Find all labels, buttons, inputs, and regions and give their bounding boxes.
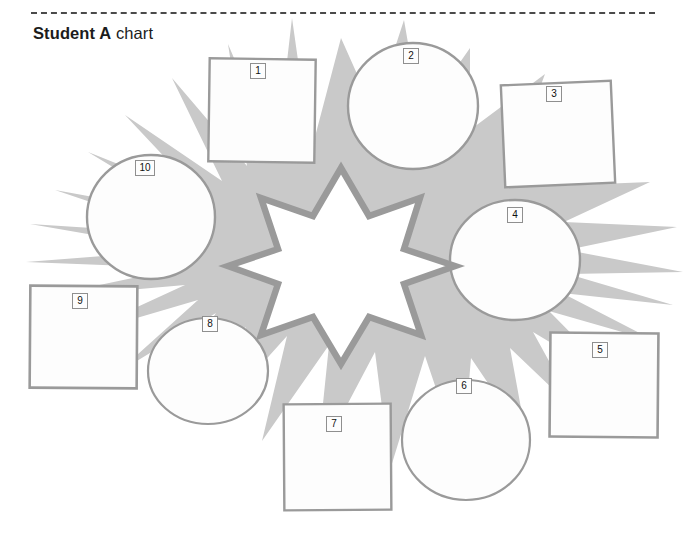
node-label-2[interactable]: 2: [403, 48, 419, 64]
node-label-6[interactable]: 6: [456, 378, 472, 394]
node-label-8[interactable]: 8: [202, 316, 218, 332]
node-label-4[interactable]: 4: [507, 207, 523, 223]
node-label-10[interactable]: 10: [135, 160, 155, 176]
node-label-7[interactable]: 7: [326, 416, 342, 432]
node-label-3[interactable]: 3: [546, 86, 562, 102]
node-label-1[interactable]: 1: [250, 63, 266, 79]
node-label-5[interactable]: 5: [592, 342, 608, 358]
starburst-diagram: [0, 0, 683, 535]
center-star-shape[interactable]: [228, 168, 455, 364]
worksheet-page: Student A chart: [0, 0, 683, 535]
node-label-9[interactable]: 9: [72, 293, 88, 309]
node-circle-8[interactable]: [148, 318, 268, 424]
node-circle-6[interactable]: [402, 380, 530, 500]
